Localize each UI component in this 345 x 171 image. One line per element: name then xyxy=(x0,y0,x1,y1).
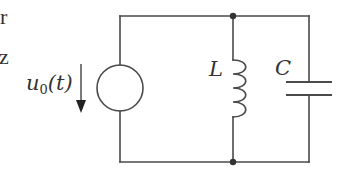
junction-dot-bottom xyxy=(230,159,236,165)
source-label-main: u xyxy=(26,71,40,95)
source-label: u0(t) xyxy=(26,73,73,96)
circuit-diagram: r z u0(t) L C xyxy=(0,0,345,171)
capacitor-label: C xyxy=(275,58,291,79)
junction-dot-top xyxy=(230,13,236,19)
cropped-text-fragment-1: r xyxy=(0,6,7,28)
source-label-subscript: 0 xyxy=(40,82,48,97)
inductor-label: L xyxy=(209,59,223,80)
voltage-source-icon xyxy=(97,65,143,111)
source-label-argument: (t) xyxy=(48,71,73,95)
voltage-arrow-head-icon xyxy=(76,100,86,113)
cropped-text-fragment-2: z xyxy=(0,46,9,68)
inductor-coil xyxy=(233,60,246,117)
